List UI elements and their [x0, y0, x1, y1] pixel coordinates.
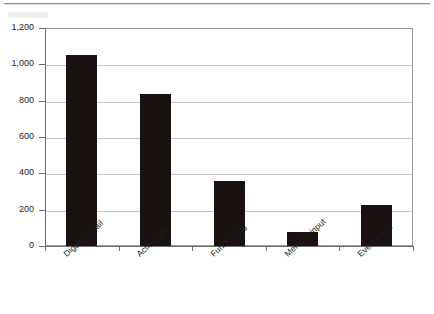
y-axis-tick-mark: [39, 64, 45, 65]
bar: [140, 94, 171, 246]
x-axis-tick-mark: [266, 246, 267, 251]
y-axis-tick-mark: [39, 101, 45, 102]
y-axis-tick-mark: [39, 173, 45, 174]
y-axis-tick-label: 800: [0, 96, 34, 105]
x-axis-tick-mark: [119, 246, 120, 251]
y-axis-tick-label: 0: [0, 241, 34, 250]
y-axis-tick-mark: [39, 28, 45, 29]
y-axis-tick-label: 1,000: [0, 59, 34, 68]
y-axis-tick-mark: [39, 210, 45, 211]
y-axis-tick-label: 600: [0, 132, 34, 141]
y-axis-tick-label: 400: [0, 168, 34, 177]
bar-chart: 02004006008001,0001,200 Digest/e-mailAct…: [0, 0, 434, 314]
x-axis-line: [45, 246, 413, 247]
screenshot-root: 02004006008001,0001,200 Digest/e-mailAct…: [0, 0, 434, 314]
y-axis-line: [45, 28, 46, 247]
y-axis-tick-label: 200: [0, 205, 34, 214]
x-axis-tick-mark: [192, 246, 193, 251]
gridline: [46, 138, 412, 139]
gridline: [46, 102, 412, 103]
gridline: [46, 65, 412, 66]
y-axis-tick-mark: [39, 137, 45, 138]
x-axis-tick-mark: [45, 246, 46, 251]
y-axis-tick-label: 1,200: [0, 23, 34, 32]
x-axis-tick-mark: [339, 246, 340, 251]
bar: [66, 55, 97, 246]
gridline: [46, 174, 412, 175]
x-axis-tick-mark: [413, 246, 414, 251]
